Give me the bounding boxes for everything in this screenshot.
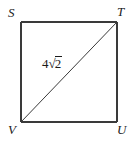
diagonal-V-T bbox=[21, 22, 117, 122]
diagonal-measure-label: 4√2 bbox=[42, 56, 62, 72]
vertex-label-U: U bbox=[117, 123, 126, 136]
figure-canvas bbox=[0, 0, 135, 145]
vertex-label-T: T bbox=[117, 5, 124, 18]
vertex-label-V: V bbox=[8, 123, 16, 136]
geometry-figure: S T U V 4√2 bbox=[0, 0, 135, 145]
radical-expression: √2 bbox=[49, 56, 63, 72]
vertex-label-S: S bbox=[8, 6, 15, 19]
measure-radicand: 2 bbox=[55, 56, 63, 70]
